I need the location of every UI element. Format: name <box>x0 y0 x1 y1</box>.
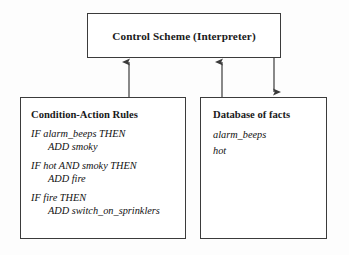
fact-item: alarm_beeps <box>213 128 318 141</box>
rule-condition: IF alarm_beeps THEN <box>31 128 177 141</box>
control-scheme-box: Control Scheme (Interpreter) <box>87 13 281 58</box>
rule-action: ADD switch_on_sprinklers <box>31 205 177 218</box>
rule-item: IF hot AND smoky THEN ADD fire <box>31 160 177 185</box>
rule-item: IF fire THEN ADD switch_on_sprinklers <box>31 192 177 217</box>
rule-action: ADD fire <box>31 173 177 186</box>
condition-action-rules-title: Condition-Action Rules <box>31 109 177 120</box>
fact-item: hot <box>213 144 318 157</box>
control-scheme-title: Control Scheme (Interpreter) <box>112 30 255 42</box>
database-of-facts-title: Database of facts <box>213 109 318 120</box>
condition-action-rules-box: Condition-Action Rules IF alarm_beeps TH… <box>20 97 186 239</box>
rule-condition: IF hot AND smoky THEN <box>31 160 177 173</box>
rule-action: ADD smoky <box>31 141 177 154</box>
rule-item: IF alarm_beeps THEN ADD smoky <box>31 128 177 153</box>
database-of-facts-box: Database of facts alarm_beeps hot <box>200 97 327 239</box>
diagram-canvas: Control Scheme (Interpreter) Condition-A… <box>0 0 349 255</box>
rule-condition: IF fire THEN <box>31 192 177 205</box>
